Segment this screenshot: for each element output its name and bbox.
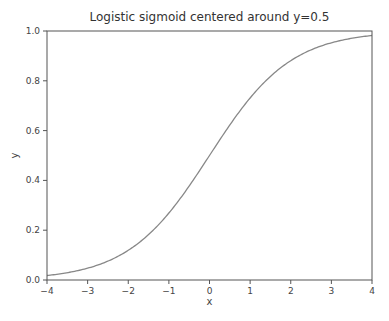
x-tick-label: 0 xyxy=(207,286,213,296)
x-tick-label: −1 xyxy=(162,286,175,296)
x-tick-label: 3 xyxy=(329,286,335,296)
y-tick-label: 1.0 xyxy=(26,26,41,36)
x-tick-label: −3 xyxy=(81,286,94,296)
y-tick-label: 0.0 xyxy=(26,275,41,285)
y-tick-label: 0.4 xyxy=(26,175,41,185)
y-axis-label: y xyxy=(9,152,20,158)
y-axis-ticks: 0.00.20.40.60.81.0 xyxy=(26,26,47,285)
x-tick-label: 2 xyxy=(288,286,294,296)
x-axis-label: x xyxy=(207,296,213,307)
y-tick-label: 0.6 xyxy=(26,126,41,136)
y-tick-label: 0.2 xyxy=(26,225,40,235)
sigmoid-line xyxy=(47,35,372,275)
x-axis-ticks: −4−3−2−101234 xyxy=(40,280,375,296)
x-tick-label: −2 xyxy=(122,286,135,296)
x-tick-label: 1 xyxy=(247,286,253,296)
x-tick-label: −4 xyxy=(40,286,54,296)
chart-canvas: −4−3−2−101234 0.00.20.40.60.81.0 x y xyxy=(0,0,389,321)
y-tick-label: 0.8 xyxy=(26,76,41,86)
x-tick-label: 4 xyxy=(369,286,375,296)
